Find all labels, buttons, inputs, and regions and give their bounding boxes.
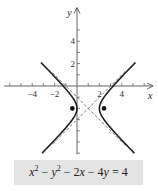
asymptote-2 bbox=[52, 73, 125, 146]
equation-part: = 4 bbox=[109, 165, 128, 179]
x-tick-label: 4 bbox=[120, 89, 125, 99]
focus-left-point bbox=[70, 106, 75, 111]
equation-box: x2 − y2 − 2x − 4y = 4 bbox=[14, 160, 143, 185]
x-axis-label: x bbox=[147, 89, 153, 101]
equation-part: − 4 bbox=[85, 165, 104, 179]
x-tick-label: −4 bbox=[27, 89, 37, 99]
x-tick-label: −2 bbox=[50, 89, 60, 99]
asymptote-1 bbox=[52, 71, 125, 144]
hyperbola-plot: −4−22424xy bbox=[0, 0, 158, 160]
y-axis-label: y bbox=[66, 6, 72, 18]
marks bbox=[41, 62, 136, 153]
equation-text: x2 − y2 − 2x − 4y = 4 bbox=[29, 165, 127, 180]
focus-right-point bbox=[102, 106, 107, 111]
equation-part: − 2 bbox=[61, 165, 80, 179]
y-tick-label: 4 bbox=[71, 36, 76, 46]
axes: −4−22424xy bbox=[4, 6, 153, 155]
y-tick-label: 2 bbox=[71, 59, 76, 69]
equation-part: − bbox=[39, 165, 52, 179]
